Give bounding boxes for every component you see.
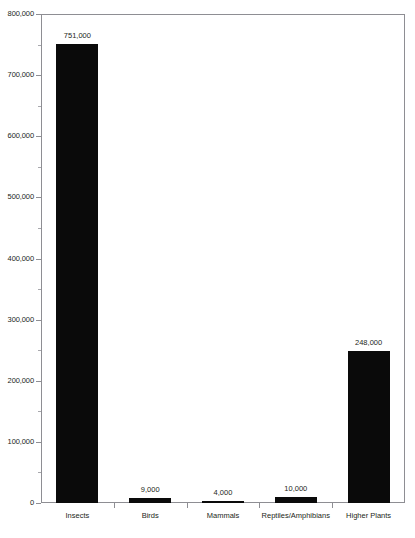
x-axis-category-label: Higher Plants bbox=[332, 510, 405, 521]
y-axis-tick-label: 600,000 bbox=[8, 130, 34, 141]
x-axis-tick-mark bbox=[114, 503, 115, 508]
bar-value-label: 10,000 bbox=[284, 484, 307, 494]
y-axis-tick-label: 500,000 bbox=[8, 191, 34, 202]
bar-group[interactable]: 751,000 bbox=[56, 14, 98, 503]
bar-value-label: 751,000 bbox=[64, 31, 91, 41]
bar[interactable] bbox=[56, 44, 98, 503]
bars-layer: 751,0009,0004,00010,000248,000 bbox=[41, 14, 405, 503]
y-axis: 800,000700,000600,000500,000400,000300,0… bbox=[0, 14, 41, 503]
y-axis-tick-label: 300,000 bbox=[8, 314, 34, 325]
y-axis-tick-label: 400,000 bbox=[8, 253, 34, 264]
x-axis-tick-mark bbox=[259, 503, 260, 508]
bar-group[interactable]: 248,000 bbox=[348, 14, 390, 503]
x-axis-category-label: Mammals bbox=[187, 510, 260, 521]
clipped-title-text: · · · · · · · · bbox=[0, 0, 415, 3]
y-axis-tick-label: 100,000 bbox=[8, 436, 34, 447]
x-axis-tick-mark bbox=[187, 503, 188, 508]
bar-chart: · · · · · · · · 800,000700,000600,000500… bbox=[0, 0, 415, 538]
x-axis-category-label: Reptiles/Amphibians bbox=[259, 510, 332, 521]
x-axis-tick-mark bbox=[332, 503, 333, 508]
x-axis: InsectsBirdsMammalsReptiles/AmphibiansHi… bbox=[41, 503, 405, 533]
y-axis-tick-label: 700,000 bbox=[8, 69, 34, 80]
bar-value-label: 9,000 bbox=[141, 485, 160, 495]
bar-group[interactable]: 4,000 bbox=[202, 14, 244, 503]
bar[interactable] bbox=[348, 351, 390, 503]
bar-group[interactable]: 10,000 bbox=[275, 14, 317, 503]
y-axis-tick-label: 0 bbox=[30, 497, 34, 508]
y-axis-tick-label: 800,000 bbox=[8, 8, 34, 19]
bar-group[interactable]: 9,000 bbox=[129, 14, 171, 503]
bar-value-label: 248,000 bbox=[355, 338, 382, 348]
bar-value-label: 4,000 bbox=[214, 488, 233, 498]
x-axis-category-label: Insects bbox=[41, 510, 114, 521]
y-axis-tick-label: 200,000 bbox=[8, 375, 34, 386]
x-axis-category-label: Birds bbox=[114, 510, 187, 521]
